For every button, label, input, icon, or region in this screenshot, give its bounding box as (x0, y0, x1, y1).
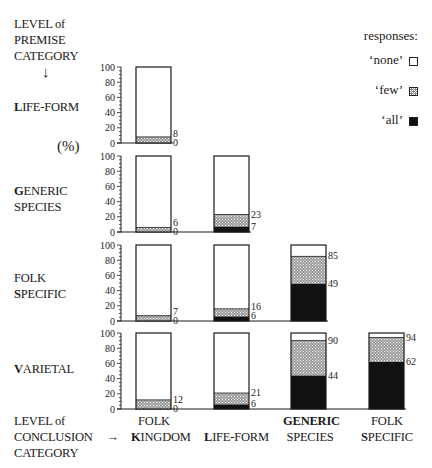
panel-folk-specific: 100806040200701668549 (100, 240, 338, 327)
bar-folk-specific: 9462 (369, 332, 416, 409)
segment-none (214, 156, 249, 215)
segment-none (214, 245, 249, 309)
value-label-all: 6 (251, 398, 256, 409)
bar-folk-kingdom: 60 (136, 156, 178, 237)
segment-few (136, 137, 171, 143)
segment-few (214, 309, 249, 317)
segment-all (214, 404, 249, 409)
y-tick-label: 20 (105, 211, 115, 222)
y-tick-label: 60 (105, 92, 115, 103)
segment-none (136, 245, 171, 316)
segment-few (291, 341, 326, 376)
value-label-few: 85 (328, 250, 338, 261)
y-tick-label: 40 (105, 196, 115, 207)
y-tick-label: 40 (105, 285, 115, 296)
segment-none (136, 156, 171, 227)
value-label-all: 7 (251, 221, 256, 232)
segment-all (214, 227, 249, 232)
y-tick-label: 100 (100, 151, 115, 162)
segment-few (291, 256, 326, 283)
y-tick-label: 80 (105, 343, 115, 354)
segment-none (291, 333, 326, 341)
y-tick-label: 60 (105, 181, 115, 192)
panel-life-form: 10080604020080 (100, 62, 178, 149)
segment-few (136, 400, 171, 409)
y-tick-label: 40 (105, 373, 115, 384)
y-tick-label: 60 (105, 270, 115, 281)
value-label-all: 44 (328, 370, 338, 381)
bar-life-form: 237 (214, 156, 261, 232)
value-label-all: 6 (251, 310, 256, 321)
y-tick-label: 0 (110, 404, 115, 415)
y-tick-label: 100 (100, 62, 115, 73)
bar-generic-species: 9044 (291, 333, 338, 409)
segment-none (136, 333, 171, 400)
bar-life-form: 166 (214, 245, 261, 321)
y-tick-label: 0 (110, 316, 115, 327)
segment-none (369, 333, 404, 338)
y-tick-label: 80 (105, 166, 115, 177)
segment-none (214, 333, 249, 393)
y-tick-label: 20 (105, 388, 115, 399)
segment-few (214, 393, 249, 404)
segment-all (369, 362, 404, 409)
segment-few (136, 227, 171, 232)
segment-few (136, 316, 171, 321)
segment-all (291, 376, 326, 409)
segment-none (291, 245, 326, 256)
panel-generic-species: 10080604020060237 (100, 151, 261, 238)
panel-varietal: 10080604020012021690449462 (100, 328, 416, 415)
value-label-few: 94 (406, 332, 416, 343)
y-tick-label: 80 (105, 255, 115, 266)
y-tick-label: 100 (100, 328, 115, 339)
segment-few (214, 215, 249, 227)
bar-generic-species: 8549 (291, 245, 338, 321)
bar-life-form: 216 (214, 333, 261, 409)
value-label-all: 0 (173, 315, 178, 326)
segment-few (369, 338, 404, 362)
bar-folk-kingdom: 120 (136, 333, 183, 414)
y-tick-label: 100 (100, 240, 115, 251)
y-tick-label: 60 (105, 358, 115, 369)
y-tick-label: 80 (105, 77, 115, 88)
segment-all (291, 284, 326, 321)
y-tick-label: 0 (110, 227, 115, 238)
stacked-bar-chart: 1008060402008010080604020060237100806040… (0, 0, 432, 468)
segment-none (136, 67, 171, 137)
value-label-few: 21 (251, 387, 261, 398)
value-label-few: 90 (328, 335, 338, 346)
segment-all (214, 316, 249, 321)
y-tick-label: 40 (105, 107, 115, 118)
value-label-all: 0 (173, 403, 178, 414)
value-label-all: 62 (406, 356, 416, 367)
bar-folk-kingdom: 70 (136, 245, 178, 326)
value-label-all: 0 (173, 226, 178, 237)
y-tick-label: 20 (105, 300, 115, 311)
bar-folk-kingdom: 80 (136, 67, 178, 148)
y-tick-label: 0 (110, 138, 115, 149)
value-label-few: 23 (251, 209, 261, 220)
y-tick-label: 20 (105, 122, 115, 133)
value-label-all: 0 (173, 137, 178, 148)
value-label-all: 49 (328, 278, 338, 289)
